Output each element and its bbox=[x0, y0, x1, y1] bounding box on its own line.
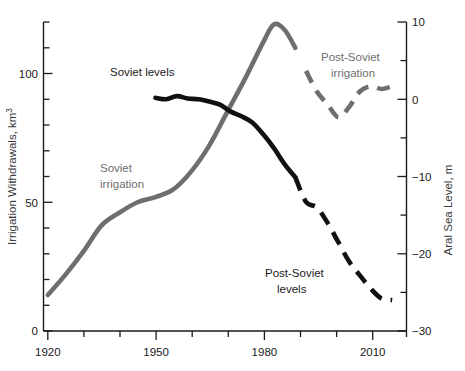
right-axis-title: Aral Sea Level, m bbox=[442, 165, 454, 256]
annotation-post-soviet-levels-line1: Post-Soviet bbox=[265, 267, 325, 279]
left-axis-title: Irrigation Withdrawals, km3 bbox=[5, 108, 18, 245]
y-tick-label-100: 100 bbox=[19, 68, 38, 80]
right-axis-title-text: Aral Sea Level, m bbox=[442, 165, 454, 256]
aral-sea-chart: 0 50 100 Irrigation Withdrawals, km3 bbox=[0, 0, 465, 371]
x-tick-label-1920: 1920 bbox=[35, 346, 61, 358]
annotation-post-soviet-irrigation-line2: irrigation bbox=[331, 67, 375, 79]
y2-tick-label-minus30: −30 bbox=[412, 325, 432, 337]
x-tick-label-1980: 1980 bbox=[252, 346, 278, 358]
annotation-post-soviet-levels-line2: levels bbox=[277, 283, 307, 295]
x-tick-label-1950: 1950 bbox=[143, 346, 169, 358]
annotation-post-soviet-irrigation-line1: Post-Soviet bbox=[321, 51, 381, 63]
chart-background bbox=[0, 0, 465, 371]
svg-text:Irrigation Withdrawals, km3: Irrigation Withdrawals, km3 bbox=[5, 108, 18, 245]
left-axis-title-superscript: 3 bbox=[5, 108, 14, 113]
annotation-soviet-irrigation-line2: irrigation bbox=[100, 178, 144, 190]
y2-tick-label-minus10: −10 bbox=[412, 171, 432, 183]
x-tick-label-2010: 2010 bbox=[360, 346, 386, 358]
y2-tick-label-minus20: −20 bbox=[412, 248, 432, 260]
y2-tick-label-0: 0 bbox=[412, 94, 418, 106]
chart-svg: 0 50 100 Irrigation Withdrawals, km3 bbox=[0, 0, 465, 371]
y-tick-label-0: 0 bbox=[32, 325, 38, 337]
annotation-soviet-irrigation-line1: Soviet bbox=[100, 162, 133, 174]
y2-tick-label-10: 10 bbox=[412, 16, 425, 28]
y-tick-label-50: 50 bbox=[25, 197, 38, 209]
left-axis-title-main: Irrigation Withdrawals, km bbox=[6, 113, 18, 245]
annotation-soviet-levels: Soviet levels bbox=[110, 66, 175, 78]
